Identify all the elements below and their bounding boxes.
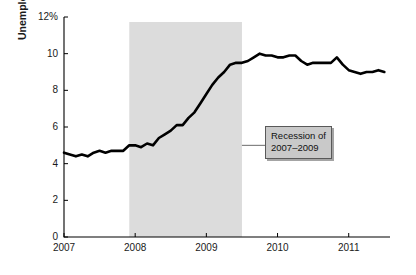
- y-tick-label: 8: [52, 85, 58, 95]
- y-tick-label: 4: [52, 159, 58, 169]
- unemployment-rate-chart: Unemployment rate 12%1086420 20072008200…: [0, 0, 416, 275]
- recession-annotation-line2: 2007–2009: [271, 142, 326, 154]
- recession-annotation-line1: Recession of: [271, 130, 326, 142]
- y-tick-label: 12%: [38, 12, 58, 22]
- x-tick-label: 2009: [186, 243, 226, 253]
- y-tick-label: 6: [52, 122, 58, 132]
- y-tick-label: 0: [52, 232, 58, 242]
- plot-area: [0, 0, 416, 275]
- x-tick-label: 2007: [44, 243, 84, 253]
- recession-band: [129, 22, 242, 237]
- y-axis-title: Unemployment rate: [16, 0, 30, 40]
- x-tick-label: 2010: [258, 243, 298, 253]
- recession-annotation-box: Recession of 2007–2009: [265, 126, 332, 159]
- x-tick-label: 2011: [329, 243, 369, 253]
- recession-shading-group: [129, 22, 242, 237]
- x-tick-label: 2008: [115, 243, 155, 253]
- y-axis-title-wrapper: Unemployment rate: [12, 12, 28, 172]
- y-tick-label: 10: [47, 49, 58, 59]
- y-tick-label: 2: [52, 195, 58, 205]
